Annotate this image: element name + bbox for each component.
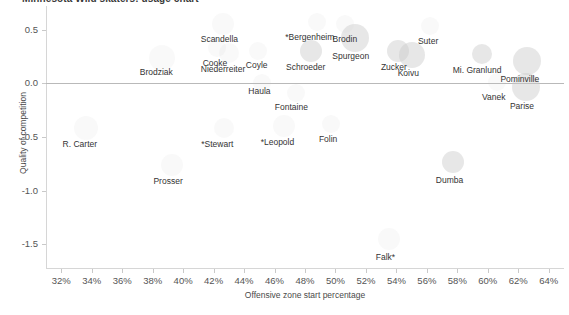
data-point-label: Vanek <box>482 93 505 102</box>
data-point-label: *Stewart <box>201 140 233 149</box>
plot-area <box>46 6 564 268</box>
zero-line <box>46 83 564 84</box>
data-point-label: Fontaine <box>275 103 308 112</box>
usage-bubble-chart: Minnesota Wild skaters: usage chart 0.50… <box>0 0 569 315</box>
data-point-label: Niederreiter <box>201 65 245 74</box>
x-tick-mark <box>335 269 336 273</box>
y-tick-mark <box>42 244 46 245</box>
x-tick-label: 64% <box>529 275 569 286</box>
y-tick-mark <box>42 30 46 31</box>
x-tick-mark <box>305 269 306 273</box>
y-tick-mark <box>42 137 46 138</box>
x-tick-mark <box>457 269 458 273</box>
y-axis-title: Quality of competition <box>18 58 28 208</box>
x-tick-mark <box>366 269 367 273</box>
x-tick-mark <box>183 269 184 273</box>
x-tick-mark <box>122 269 123 273</box>
x-tick-mark <box>549 269 550 273</box>
data-point-label: Parise <box>510 102 534 111</box>
data-point-label: Brodin <box>333 35 358 44</box>
data-point-label: Suter <box>418 37 438 46</box>
data-point-label: Haula <box>248 87 270 96</box>
y-tick-label: 0.5 <box>4 24 38 35</box>
x-tick-mark <box>153 269 154 273</box>
x-tick-mark <box>488 269 489 273</box>
data-point-label: *Leopold <box>261 138 295 147</box>
x-axis-title: Offensive zone start percentage <box>46 290 564 300</box>
x-tick-mark <box>275 269 276 273</box>
x-tick-mark <box>214 269 215 273</box>
data-point-label: Coyle <box>246 61 268 70</box>
x-tick-mark <box>396 269 397 273</box>
y-tick-mark <box>42 191 46 192</box>
data-point-label: *Bergenheim <box>285 33 334 42</box>
data-point-label: Koivu <box>398 69 419 78</box>
data-point-label: Mi. Granlund <box>453 66 502 75</box>
data-point-label: Folin <box>319 135 337 144</box>
data-point-label: Brodziak <box>140 68 173 77</box>
data-point-label: Scandella <box>201 35 238 44</box>
x-tick-mark <box>427 269 428 273</box>
data-point-label: Pominville <box>500 75 539 84</box>
data-point-label: Falk* <box>376 253 395 262</box>
chart-title: Minnesota Wild skaters: usage chart <box>22 0 199 4</box>
data-point-label: Spurgeon <box>332 52 369 61</box>
data-point-label: Prosser <box>153 177 182 186</box>
data-point-label: Dumba <box>436 176 463 185</box>
y-tick-label: -1.5 <box>4 238 38 249</box>
x-tick-mark <box>518 269 519 273</box>
x-tick-mark <box>92 269 93 273</box>
x-tick-mark <box>244 269 245 273</box>
data-point-label: Schroeder <box>286 63 325 72</box>
x-tick-mark <box>61 269 62 273</box>
data-point-label: R. Carter <box>63 140 97 149</box>
